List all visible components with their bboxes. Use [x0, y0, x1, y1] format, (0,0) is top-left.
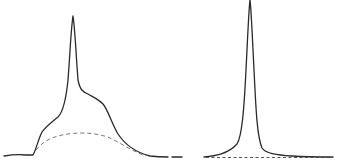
figure-canvas [0, 0, 340, 164]
left-dashed-background [36, 133, 146, 156]
right-solid-peak [204, 0, 333, 157]
right-panel [172, 0, 333, 158]
spectral-profiles-figure [0, 0, 340, 164]
left-solid-profile [4, 16, 168, 157]
left-panel [4, 16, 168, 157]
